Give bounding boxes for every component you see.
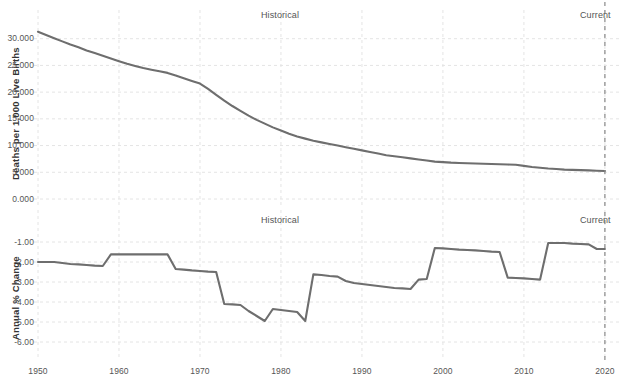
bottom-chart-plot-area bbox=[0, 210, 622, 381]
top-chart-y-tick-label: 5.000 bbox=[0, 167, 34, 177]
x-axis-tick-label: 1950 bbox=[21, 366, 55, 376]
top-chart-historical-label: Historical bbox=[261, 10, 299, 20]
bottom-chart-y-tick-label: -4.00 bbox=[0, 297, 34, 307]
x-axis-tick-label: 2010 bbox=[507, 366, 541, 376]
top-chart-y-tick-label: 30.000 bbox=[0, 33, 34, 43]
top-chart-y-tick-label: 15.000 bbox=[0, 113, 34, 123]
top-chart-y-tick-label: 25.000 bbox=[0, 60, 34, 70]
bottom-chart-historical-label: Historical bbox=[261, 215, 299, 225]
x-axis-tick-label: 1990 bbox=[345, 366, 379, 376]
chart-figure: Deaths per 1,000 Live Births Annual % Ch… bbox=[0, 0, 622, 381]
x-axis-tick-label: 1980 bbox=[264, 366, 298, 376]
x-axis-tick-label: 1970 bbox=[183, 366, 217, 376]
top-chart-current-label: Current bbox=[580, 10, 611, 20]
bottom-chart-y-tick-label: -6.00 bbox=[0, 337, 34, 347]
x-axis-tick-label: 2020 bbox=[588, 366, 622, 376]
bottom-chart-y-tick-label: -2.00 bbox=[0, 257, 34, 267]
panel-infant-mortality-rate bbox=[0, 0, 622, 210]
top-chart-y-tick-label: 0.000 bbox=[0, 194, 34, 204]
panel-annual-percent-change bbox=[0, 210, 622, 381]
x-axis-tick-label: 2000 bbox=[426, 366, 460, 376]
bottom-chart-y-tick-label: -3.00 bbox=[0, 277, 34, 287]
bottom-chart-y-tick-label: -5.00 bbox=[0, 317, 34, 327]
top-chart-plot-area bbox=[0, 0, 622, 210]
top-chart-y-tick-label: 10.000 bbox=[0, 140, 34, 150]
bottom-chart-y-tick-label: -1.00 bbox=[0, 237, 34, 247]
top-chart-y-tick-label: 20.000 bbox=[0, 87, 34, 97]
bottom-chart-current-label: Current bbox=[580, 215, 611, 225]
x-axis-tick-label: 1960 bbox=[102, 366, 136, 376]
